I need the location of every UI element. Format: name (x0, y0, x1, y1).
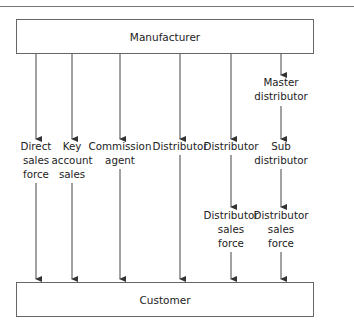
label-line: Direct (21, 140, 52, 154)
label-line: Distributor (153, 140, 208, 154)
node-distributor-sales-force-2: Distributor sales force (254, 209, 309, 250)
label-line: Distributor (254, 209, 309, 223)
node-distributor-sales-force-1: Distributor sales force (204, 209, 259, 250)
label-line: agent (89, 154, 152, 168)
node-key-account-sales: Key account sales (51, 140, 92, 181)
label-line: sales (51, 168, 92, 182)
node-commission-agent: Commission agent (89, 140, 152, 168)
label-line: sales (204, 223, 259, 237)
node-distributor: Distributor (153, 140, 208, 154)
label-line: force (21, 168, 52, 182)
label-line: Commission (89, 140, 152, 154)
label-line: distributor (254, 154, 308, 168)
label-line: Distributor (204, 209, 259, 223)
label-line: force (254, 237, 309, 251)
node-distributor-2: Distributor (204, 140, 259, 154)
label-line: Distributor (204, 140, 259, 154)
label-line: distributor (254, 90, 308, 104)
node-master-distributor: Master distributor (254, 76, 308, 104)
node-sub-distributor: Sub distributor (254, 140, 308, 168)
label-line: sales (254, 223, 309, 237)
label-line: account (51, 154, 92, 168)
label-line: force (204, 237, 259, 251)
label-line: Master (254, 76, 308, 90)
label-line: sales (21, 154, 52, 168)
label-line: Sub (254, 140, 308, 154)
label-line: Key (51, 140, 92, 154)
node-direct-sales-force: Direct sales force (21, 140, 52, 181)
